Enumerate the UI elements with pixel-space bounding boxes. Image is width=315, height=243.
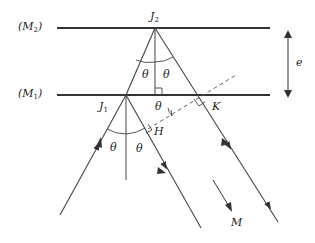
thickness-label: e xyxy=(296,56,303,69)
theta-right-bottom: θ xyxy=(136,142,143,155)
point-h-label: H xyxy=(153,125,164,138)
point-j1-label: J1 xyxy=(97,100,108,114)
reflected-ray-2 xyxy=(155,28,278,222)
theta-left-bottom: θ xyxy=(110,141,117,154)
point-m-label: M xyxy=(230,216,243,229)
reflected-ray-1 xyxy=(126,95,201,228)
mirror2-label: (M2) xyxy=(18,20,42,34)
point-j2-label: J2 xyxy=(148,10,159,24)
theta-right-top: θ xyxy=(163,68,170,81)
mirror1-label: (M1) xyxy=(18,87,42,101)
point-k-label: K xyxy=(211,100,221,113)
theta-left-top: θ xyxy=(142,68,149,81)
interferometer-diagram: (M2) (M1) e M J2 J1 K H θ θ θ θ θ xyxy=(0,0,315,243)
incident-ray xyxy=(60,95,126,215)
theta-mid: θ xyxy=(155,100,162,113)
